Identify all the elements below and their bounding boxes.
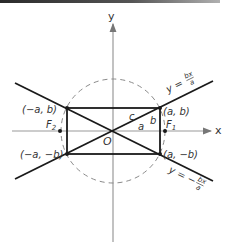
y-axis-label: y xyxy=(108,10,115,23)
focus-f2-label: F2 xyxy=(46,119,57,132)
svg-text:a: a xyxy=(188,78,195,87)
segment-a-label: a xyxy=(138,121,144,132)
segment-b-label: b xyxy=(150,115,156,126)
hyperbola-diagram: y x O (−a, b) (a, b) (−a, −b) (a, −b) F2… xyxy=(0,0,232,252)
asymptote-positive xyxy=(15,81,213,179)
point-bottom-right xyxy=(158,152,162,156)
label-bottom-left: (−a, −b) xyxy=(20,149,63,160)
focus-f1-label: F1 xyxy=(166,119,176,132)
label-top-right: (a, b) xyxy=(163,106,190,117)
focus-f2 xyxy=(58,129,62,133)
point-top-right xyxy=(158,106,162,110)
svg-text:y =: y = xyxy=(163,77,184,95)
point-top-left xyxy=(65,106,69,110)
label-bottom-right: (a, −b) xyxy=(163,149,198,160)
label-top-left: (−a, b) xyxy=(22,104,57,115)
origin-label: O xyxy=(103,135,112,148)
point-bottom-left xyxy=(65,152,69,156)
asymptote-negative-equation: y = − bx a xyxy=(165,162,208,194)
x-axis-label: x xyxy=(215,124,222,137)
svg-text:a: a xyxy=(195,183,202,192)
asymptote-negative xyxy=(15,83,213,181)
segment-c-label: c xyxy=(129,111,135,122)
svg-text:y = −: y = − xyxy=(166,163,198,186)
asymptote-positive-equation: y = bx a xyxy=(162,69,198,98)
